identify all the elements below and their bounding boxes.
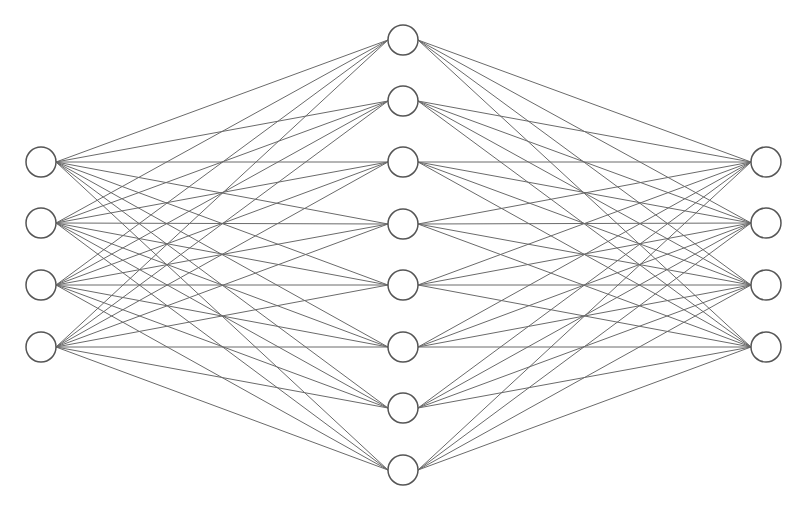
edge-hidden-7-output-2: [418, 285, 751, 470]
input-node-0: [26, 147, 56, 177]
edge-hidden-7-output-3: [418, 347, 751, 470]
hidden-node-7: [388, 455, 418, 485]
edge-hidden-0-output-0: [418, 40, 751, 162]
edge-input-0-hidden-0: [56, 40, 388, 162]
edge-input-3-hidden-6: [56, 347, 388, 408]
edge-hidden-1-output-0: [418, 101, 751, 162]
network-nodes: [26, 25, 781, 485]
input-node-3: [26, 332, 56, 362]
edge-input-3-hidden-0: [56, 40, 388, 347]
edge-hidden-7-output-0: [418, 162, 751, 470]
hidden-node-2: [388, 147, 418, 177]
hidden-node-4: [388, 270, 418, 300]
input-node-2: [26, 270, 56, 300]
hidden-node-1: [388, 86, 418, 116]
hidden-node-5: [388, 332, 418, 362]
neural-network-diagram: [0, 0, 806, 512]
hidden-node-6: [388, 393, 418, 423]
input-node-1: [26, 208, 56, 238]
output-node-3: [751, 332, 781, 362]
hidden-node-0: [388, 25, 418, 55]
hidden-node-3: [388, 209, 418, 239]
output-node-2: [751, 270, 781, 300]
edge-input-3-hidden-7: [56, 347, 388, 470]
output-node-1: [751, 208, 781, 238]
edge-input-1-hidden-0: [56, 40, 388, 223]
output-node-0: [751, 147, 781, 177]
